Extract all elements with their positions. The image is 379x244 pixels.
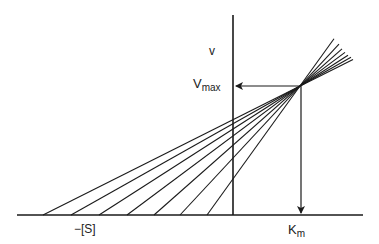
vmax-label-sub: max [202, 82, 221, 93]
vmax-label-main: V [193, 76, 202, 91]
km-label-sub: m [297, 228, 305, 239]
substrate-lines [43, 39, 353, 215]
direct-linear-plot: v Vmax −[S] Km [0, 0, 379, 244]
substrate-line [180, 44, 339, 215]
vmax-label: Vmax [193, 76, 221, 93]
v-axis-label: v [209, 44, 215, 58]
substrate-line [207, 39, 334, 215]
substrate-line [99, 55, 348, 215]
substrate-line [154, 49, 342, 215]
km-label: Km [288, 222, 305, 239]
km-label-main: K [288, 222, 297, 237]
negative-substrate-label: −[S] [74, 222, 96, 236]
substrate-line [127, 52, 345, 215]
substrate-line [71, 57, 351, 215]
